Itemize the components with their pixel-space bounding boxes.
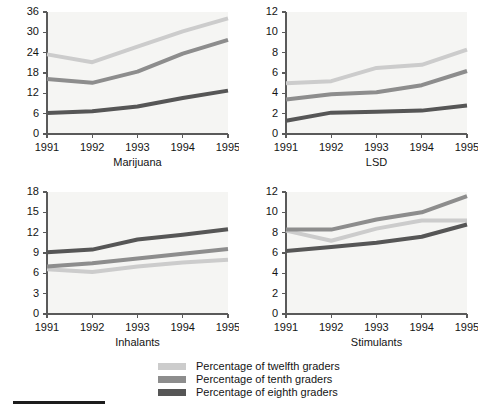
- panel-title: Marijuana: [113, 156, 162, 168]
- x-tick-label: 1995: [216, 141, 239, 153]
- chart-svg-inhalants: 036912151819911992199319941995Inhalants: [0, 180, 239, 358]
- x-tick-label: 1995: [455, 321, 478, 333]
- footer-rule: [13, 401, 105, 404]
- y-tick-label: 2: [272, 287, 278, 299]
- x-tick-label: 1991: [274, 141, 298, 153]
- x-tick-label: 1994: [171, 141, 195, 153]
- multi-panel-line-chart-figure: 06121824303619911992199319941995Marijuan…: [0, 0, 478, 410]
- y-tick-label: 3: [33, 287, 39, 299]
- y-tick-label: 18: [27, 185, 39, 197]
- legend-swatch-eighth-graders: [158, 389, 186, 396]
- x-tick-label: 1992: [319, 321, 343, 333]
- legend-item-tenth-graders: Percentage of tenth graders: [158, 374, 458, 385]
- y-tick-label: 12: [27, 86, 39, 98]
- panel-title: Inhalants: [115, 336, 160, 348]
- x-tick-label: 1993: [364, 141, 388, 153]
- x-tick-label: 1992: [80, 321, 104, 333]
- y-tick-label: 4: [272, 86, 278, 98]
- chart-panel-inhalants: 036912151819911992199319941995Inhalants: [0, 180, 239, 358]
- y-tick-label: 0: [33, 127, 39, 139]
- chart-panel-marijuana: 06121824303619911992199319941995Marijuan…: [0, 0, 239, 178]
- x-tick-label: 1994: [410, 321, 434, 333]
- y-tick-label: 30: [27, 25, 39, 37]
- x-tick-label: 1991: [274, 321, 298, 333]
- y-tick-label: 8: [272, 226, 278, 238]
- y-tick-label: 6: [272, 246, 278, 258]
- y-tick-label: 4: [272, 266, 278, 278]
- legend-swatch-tenth-graders: [158, 376, 186, 383]
- y-tick-label: 36: [27, 5, 39, 17]
- y-tick-label: 6: [33, 266, 39, 278]
- chart-panel-lsd: 02468101219911992199319941995LSD: [239, 0, 478, 178]
- y-tick-label: 0: [272, 307, 278, 319]
- panel-title: Stimulants: [351, 336, 403, 348]
- x-tick-label: 1992: [80, 141, 104, 153]
- chart-svg-stimulants: 02468101219911992199319941995Stimulants: [239, 180, 478, 358]
- legend-label-tenth-graders: Percentage of tenth graders: [196, 374, 332, 385]
- legend-label-eighth-graders: Percentage of eighth graders: [196, 387, 338, 398]
- y-tick-label: 10: [266, 205, 278, 217]
- y-tick-label: 2: [272, 107, 278, 119]
- y-tick-label: 6: [272, 66, 278, 78]
- legend-label-twelfth-graders: Percentage of twelfth graders: [196, 361, 340, 372]
- y-tick-label: 12: [266, 5, 278, 17]
- y-tick-label: 6: [33, 107, 39, 119]
- x-tick-label: 1993: [125, 321, 149, 333]
- panel-title: LSD: [366, 156, 387, 168]
- x-tick-label: 1991: [35, 141, 59, 153]
- x-tick-label: 1993: [125, 141, 149, 153]
- y-tick-label: 8: [272, 46, 278, 58]
- y-tick-label: 24: [27, 46, 39, 58]
- x-tick-label: 1991: [35, 321, 59, 333]
- x-tick-label: 1995: [455, 141, 478, 153]
- y-tick-label: 18: [27, 66, 39, 78]
- chart-svg-lsd: 02468101219911992199319941995LSD: [239, 0, 478, 178]
- plot-background: [286, 192, 467, 314]
- y-tick-label: 9: [33, 246, 39, 258]
- chart-legend: Percentage of twelfth graders Percentage…: [158, 361, 458, 400]
- x-tick-label: 1994: [410, 141, 434, 153]
- legend-item-twelfth-graders: Percentage of twelfth graders: [158, 361, 458, 372]
- x-tick-label: 1994: [171, 321, 195, 333]
- x-tick-label: 1995: [216, 321, 239, 333]
- legend-item-eighth-graders: Percentage of eighth graders: [158, 387, 458, 398]
- y-tick-label: 0: [33, 307, 39, 319]
- x-tick-label: 1993: [364, 321, 388, 333]
- chart-panel-stimulants: 02468101219911992199319941995Stimulants: [239, 180, 478, 358]
- y-tick-label: 0: [272, 127, 278, 139]
- y-tick-label: 10: [266, 25, 278, 37]
- chart-svg-marijuana: 06121824303619911992199319941995Marijuan…: [0, 0, 239, 178]
- x-tick-label: 1992: [319, 141, 343, 153]
- y-tick-label: 15: [27, 205, 39, 217]
- y-tick-label: 12: [266, 185, 278, 197]
- legend-swatch-twelfth-graders: [158, 363, 186, 370]
- y-tick-label: 12: [27, 226, 39, 238]
